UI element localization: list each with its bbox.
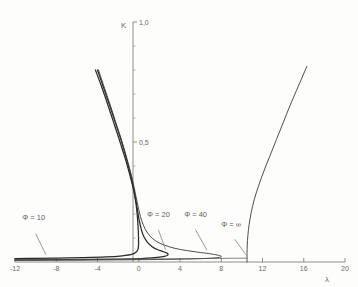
annotation-leader-phi-40	[195, 230, 206, 250]
annotation-label-phi-40: Φ = 40	[184, 210, 207, 219]
annotation-label-phi-inf: Φ = ∞	[221, 220, 241, 229]
y-axis-label: K	[121, 21, 127, 30]
y-axis-tick-label: 0,5	[139, 139, 149, 146]
x-axis-tick-label: 0	[137, 265, 141, 272]
annotation-label-phi-20: Φ = 20	[147, 210, 170, 219]
data-curve	[247, 66, 307, 262]
plot-area: -12-8-40481216200,51,0Kλ Φ = 10Φ = 20Φ =…	[0, 0, 358, 287]
annotation-leader-phi-inf	[235, 239, 246, 255]
x-axis-tick-label: 16	[300, 265, 308, 272]
data-curve	[15, 70, 168, 260]
chart-figure: -12-8-40481216200,51,0Kλ Φ = 10Φ = 20Φ =…	[0, 0, 358, 287]
data-curve	[15, 70, 139, 259]
data-curve	[15, 70, 221, 260]
x-axis-tick-label: 8	[219, 265, 223, 272]
annotation-leader-phi-10	[36, 234, 46, 255]
x-axis-tick-label: 12	[259, 265, 267, 272]
axes-layer: -12-8-40481216200,51,0Kλ	[10, 19, 349, 284]
annotations-layer: Φ = 10Φ = 20Φ = 40Φ = ∞	[22, 210, 246, 255]
x-axis-tick-label: -12	[10, 265, 20, 272]
x-axis-tick-label: 4	[178, 265, 182, 272]
x-axis-tick-label: -4	[94, 265, 100, 272]
x-axis-tick-label: -8	[53, 265, 59, 272]
curves-layer	[15, 66, 307, 262]
y-axis-tick-label: 1,0	[139, 19, 149, 26]
annotation-leader-phi-20	[158, 230, 165, 250]
x-axis-label: λ	[325, 275, 329, 284]
x-axis-tick-label: 20	[341, 265, 349, 272]
annotation-label-phi-10: Φ = 10	[22, 213, 45, 222]
